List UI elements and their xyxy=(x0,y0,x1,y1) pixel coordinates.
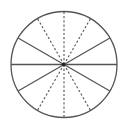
solid-radius-30deg xyxy=(64,38,110,65)
solid-radius-210deg xyxy=(18,65,64,92)
dashed-radius-60deg xyxy=(64,19,91,65)
dashed-radius-120deg xyxy=(38,19,65,65)
sector-circle-diagram xyxy=(0,0,123,129)
dashed-radius-240deg xyxy=(38,65,65,111)
center-point xyxy=(62,63,66,67)
solid-radius-150deg xyxy=(18,38,64,65)
solid-radius-330deg xyxy=(64,65,110,92)
dashed-radius-300deg xyxy=(64,65,91,111)
